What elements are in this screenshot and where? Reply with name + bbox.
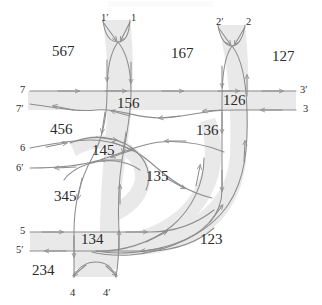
arrow-1p-c <box>78 178 82 198</box>
curve-arrangement-diagram: 567 167 127 156 126 456 136 145 135 345 … <box>0 0 322 305</box>
arrow-6-c <box>166 178 184 188</box>
band-horizontal-upper <box>28 91 296 110</box>
curve-145-inner <box>64 161 140 180</box>
shaded-bands <box>28 20 296 277</box>
diagram-canvas <box>0 0 322 305</box>
